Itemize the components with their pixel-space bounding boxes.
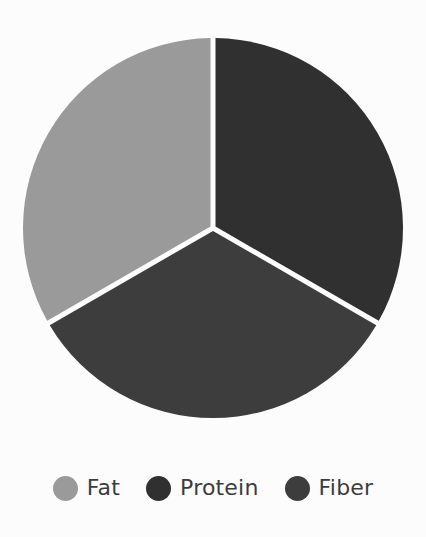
legend-item-protein[interactable]: Protein <box>146 476 259 501</box>
pie-chart-plot-area <box>0 0 426 440</box>
circle-marker-icon-fiber <box>285 476 310 501</box>
legend-label-fat: Fat <box>87 477 120 499</box>
legend-label-fiber: Fiber <box>319 477 374 499</box>
circle-marker-icon-protein <box>146 476 171 501</box>
circle-marker-icon-fat <box>53 476 78 501</box>
legend-item-fiber[interactable]: Fiber <box>285 476 374 501</box>
pie-slice-group <box>23 38 403 418</box>
legend-label-protein: Protein <box>180 477 259 499</box>
pie-chart-figure: Fat Protein Fiber <box>0 0 426 537</box>
legend-item-fat[interactable]: Fat <box>53 476 120 501</box>
pie-chart-svg <box>0 0 426 440</box>
chart-legend: Fat Protein Fiber <box>0 462 426 514</box>
